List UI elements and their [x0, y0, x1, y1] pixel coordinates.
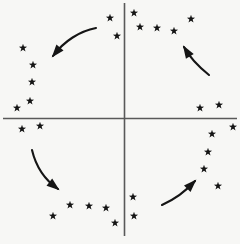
rotation-scatter-diagram [0, 0, 240, 244]
figure-background [0, 0, 240, 244]
figure-container [0, 0, 240, 244]
